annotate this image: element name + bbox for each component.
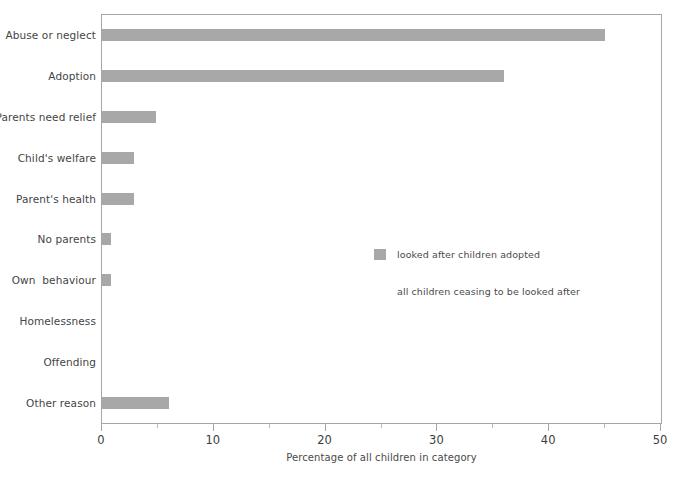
y-axis-label: Adoption (0, 56, 96, 97)
y-axis-label: Parent's health (0, 178, 96, 219)
y-axis-label: Abuse or neglect (0, 15, 96, 56)
bar-row (102, 341, 661, 382)
bars-layer (102, 15, 661, 423)
x-axis-tick (213, 424, 214, 431)
x-axis-tick-label: 50 (640, 433, 680, 447)
legend-label-0: looked after children adopted (397, 249, 540, 260)
bar (102, 152, 134, 164)
bar (102, 29, 605, 41)
bar (102, 193, 134, 205)
bar (102, 397, 169, 409)
y-axis-label: Child's welfare (0, 137, 96, 178)
x-axis-minor-tick (604, 424, 605, 428)
x-axis-tick-label: 20 (305, 433, 345, 447)
bar-row (102, 137, 661, 178)
legend-entry-0: looked after children adopted (374, 245, 644, 263)
x-axis-minor-tick (381, 424, 382, 428)
bar (102, 70, 504, 82)
bar-row (102, 15, 661, 56)
bar-row (102, 97, 661, 138)
x-axis-minor-tick (157, 424, 158, 428)
x-axis-minor-tick (269, 424, 270, 428)
x-axis-tick-label: 30 (416, 433, 456, 447)
bar-row (102, 178, 661, 219)
y-axis-label: Own behaviour (0, 260, 96, 301)
x-axis-tick (325, 424, 326, 431)
y-axis-label: Other reason (0, 382, 96, 423)
bar-row (102, 382, 661, 423)
x-axis-title: Percentage of all children in category (101, 452, 662, 463)
x-axis-tick (548, 424, 549, 431)
bar-chart: Abuse or neglectAdoptionParents need rel… (0, 0, 695, 478)
y-axis-category-labels: Abuse or neglectAdoptionParents need rel… (0, 15, 96, 423)
chart-legend: looked after children adopted all childr… (374, 245, 644, 300)
legend-label-1: all children ceasing to be looked after (397, 286, 580, 297)
y-axis-label: Parents need relief (0, 97, 96, 138)
x-axis-tick-label: 40 (528, 433, 568, 447)
y-axis-label: No parents (0, 219, 96, 260)
x-axis-tick (660, 424, 661, 431)
bar (102, 111, 156, 123)
x-axis-tick (436, 424, 437, 431)
bar (102, 274, 111, 286)
legend-entry-1: all children ceasing to be looked after (374, 282, 644, 300)
y-axis-label: Homelessness (0, 301, 96, 342)
y-axis-label: Offending (0, 341, 96, 382)
bar-row (102, 56, 661, 97)
x-axis-minor-tick (492, 424, 493, 428)
legend-swatch-icon-0 (374, 249, 386, 260)
x-axis-tick-label: 0 (81, 433, 121, 447)
bar-row (102, 301, 661, 342)
x-axis-tick (101, 424, 102, 431)
x-axis-tick-label: 10 (193, 433, 233, 447)
bar (102, 233, 111, 245)
